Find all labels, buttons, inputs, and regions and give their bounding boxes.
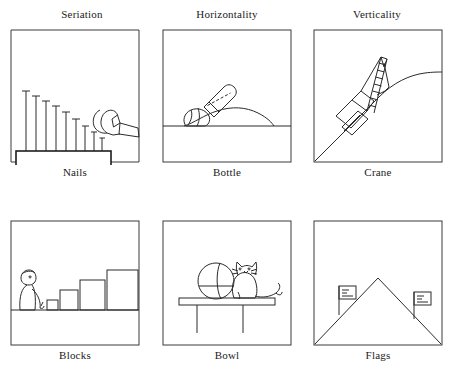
panel-frame xyxy=(163,221,291,345)
nails-group xyxy=(22,91,105,151)
panel-seriation-blocks: Blocks xyxy=(8,218,142,348)
table-top xyxy=(179,298,275,305)
block-1 xyxy=(47,300,58,310)
wooden-board xyxy=(16,151,111,165)
mountain-outline xyxy=(315,278,441,344)
flag-right xyxy=(414,292,431,319)
panel-caption-crane: Crane xyxy=(311,166,445,178)
blocks-drawing xyxy=(8,218,142,348)
panel-frame xyxy=(11,30,139,162)
figure-root: Seriation Horizontality Verticality xyxy=(0,0,452,371)
rock xyxy=(184,108,210,126)
panel-frame xyxy=(11,221,139,345)
bowl xyxy=(198,263,234,299)
bowl-drawing xyxy=(160,218,294,348)
panel-frame xyxy=(163,30,291,162)
panel-seriation-nails: Nails xyxy=(8,27,142,165)
block-3 xyxy=(80,280,105,310)
panel-caption-flags: Flags xyxy=(311,349,445,361)
panel-verticality-flags: Flags xyxy=(311,218,445,348)
bottle-drawing xyxy=(160,27,294,165)
column-title-horizontality: Horizontality xyxy=(163,8,291,20)
panel-caption-blocks: Blocks xyxy=(8,349,142,361)
crane xyxy=(336,57,389,135)
column-title-verticality: Verticality xyxy=(313,8,441,20)
block-2 xyxy=(60,290,78,310)
block-4 xyxy=(107,270,138,310)
flags-drawing xyxy=(311,218,445,348)
column-title-seriation: Seriation xyxy=(18,8,146,20)
panel-horizontality-bottle: Bottle xyxy=(160,27,294,165)
panel-frame xyxy=(314,221,442,345)
panel-caption-nails: Nails xyxy=(8,166,142,178)
claw-hammer xyxy=(93,110,139,137)
panel-horizontality-bowl: Bowl xyxy=(160,218,294,348)
crane-drawing xyxy=(311,27,445,165)
cat xyxy=(232,262,282,299)
hill-outline xyxy=(184,108,274,126)
panel-caption-bottle: Bottle xyxy=(160,166,294,178)
bottle xyxy=(204,85,236,117)
child-figure xyxy=(20,270,44,310)
nails-drawing xyxy=(8,27,142,165)
panel-caption-bowl: Bowl xyxy=(160,349,294,361)
panel-verticality-crane: Crane xyxy=(311,27,445,165)
